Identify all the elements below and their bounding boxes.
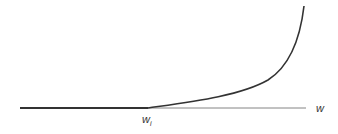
threshold-label: wi	[142, 113, 152, 127]
axis-label-w: w	[316, 102, 325, 114]
rising-curve	[148, 6, 304, 108]
diagram-canvas: w wi	[0, 0, 338, 134]
